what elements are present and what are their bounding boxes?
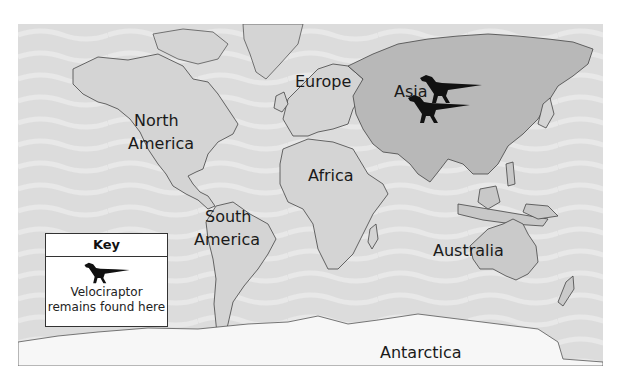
label-north-america-line2: America <box>128 134 194 153</box>
label-europe: Europe <box>295 72 351 91</box>
philippines <box>506 162 515 186</box>
map-key: Key Velociraptor remains found here <box>45 233 168 327</box>
key-description-line1: Velociraptor <box>46 285 167 300</box>
label-africa: Africa <box>308 166 354 185</box>
label-south-america-line1: South <box>205 207 252 226</box>
label-antarctica: Antarctica <box>380 343 462 362</box>
velociraptor-marker-2 <box>406 94 472 124</box>
label-south-america-line2: America <box>194 230 260 249</box>
velociraptor-silhouette-icon <box>83 261 131 285</box>
label-north-america-line1: North <box>134 111 179 130</box>
key-description-line2: remains found here <box>46 300 167 315</box>
key-title: Key <box>46 234 167 257</box>
label-australia: Australia <box>433 241 504 260</box>
